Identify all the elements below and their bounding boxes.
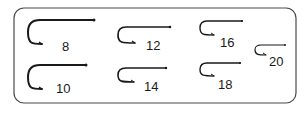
hook-eye-icon <box>165 67 167 69</box>
hook-size-label: 8 <box>62 39 69 54</box>
hook-size-8: 8 <box>28 19 96 55</box>
hook-size-label: 12 <box>146 38 160 53</box>
hook-icon <box>200 21 242 35</box>
hook-size-12: 12 <box>118 26 171 53</box>
hook-eye-icon <box>284 44 286 46</box>
hook-size-label: 10 <box>56 81 70 96</box>
hook-size-18: 18 <box>200 62 241 92</box>
hook-eye-icon <box>85 64 88 67</box>
hook-size-10: 10 <box>28 64 88 97</box>
hook-eye-icon <box>239 62 241 64</box>
hook-size-diagram: 8101214161820 <box>0 0 306 113</box>
hook-eye-icon <box>169 26 172 29</box>
hook-icon <box>118 68 166 82</box>
hooks-group: 8101214161820 <box>28 19 286 97</box>
hook-size-14: 14 <box>118 67 167 94</box>
hook-size-label: 18 <box>218 77 232 92</box>
hook-icon <box>200 63 240 76</box>
hook-size-16: 16 <box>200 20 243 50</box>
hook-size-label: 20 <box>269 54 283 69</box>
hook-icon <box>118 27 170 43</box>
hook-size-label: 16 <box>220 35 234 50</box>
hook-size-chart: 8101214161820 <box>0 0 306 113</box>
hook-icon <box>28 20 94 44</box>
hook-eye-icon <box>241 20 243 22</box>
hook-size-20: 20 <box>255 44 286 69</box>
hook-eye-icon <box>93 19 96 22</box>
hook-size-label: 14 <box>144 79 158 94</box>
